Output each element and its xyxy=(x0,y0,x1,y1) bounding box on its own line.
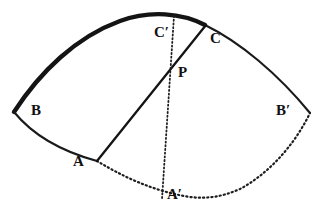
arc-B-to-A xyxy=(14,112,97,161)
point-label-A: A xyxy=(73,154,84,169)
prime-mark-C: ′ xyxy=(165,24,169,40)
geometry-figure: B B′ A A′ C C′ P xyxy=(0,0,330,221)
point-label-C: C xyxy=(210,31,221,46)
chord-Cprime-to-Aprime xyxy=(162,16,174,199)
point-label-B: B xyxy=(31,103,41,118)
chord-A-to-C xyxy=(97,25,206,161)
prime-mark-A: ′ xyxy=(178,186,182,202)
point-label-C-prime: C′ xyxy=(154,25,169,40)
prime-mark-B: ′ xyxy=(286,102,290,118)
point-label-P: P xyxy=(178,65,187,80)
arc-A-to-Bprime xyxy=(97,113,310,198)
point-label-A-prime: A′ xyxy=(167,187,182,202)
point-label-B-prime: B′ xyxy=(276,103,290,118)
